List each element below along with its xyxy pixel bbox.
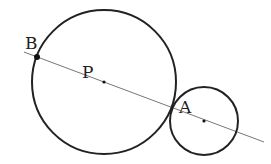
point-b <box>34 54 40 60</box>
label-b: B <box>25 33 38 53</box>
point-p <box>102 80 105 83</box>
point-a <box>202 119 205 122</box>
label-a: A <box>178 97 192 117</box>
geometry-diagram: B P A <box>0 0 271 164</box>
label-p: P <box>82 62 93 82</box>
